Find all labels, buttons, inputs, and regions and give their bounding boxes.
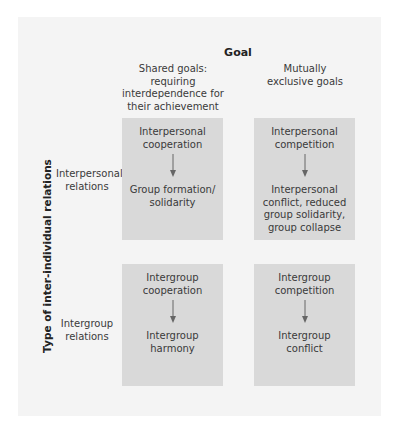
- column-header-shared-goals: Shared goals: requiring interdependence …: [112, 63, 234, 113]
- cell-cause: Intergroup cooperation: [122, 272, 223, 297]
- cell-effect: Intergroup harmony: [122, 330, 223, 355]
- cell-interpersonal-shared: Interpersonal cooperation Group formatio…: [122, 118, 223, 240]
- cell-intergroup-shared: Intergroup cooperation Intergroup harmon…: [122, 264, 223, 386]
- row-header-intergroup: Intergroup relations: [56, 318, 118, 343]
- cell-effect: Group formation/ solidarity: [122, 184, 223, 209]
- cell-interpersonal-exclusive: Interpersonal competition Interpersonal …: [254, 118, 355, 240]
- cell-effect: Intergroup conflict: [254, 330, 355, 355]
- goal-axis-title: Goal: [208, 46, 268, 59]
- column-header-exclusive-goals: Mutually exclusive goals: [250, 63, 360, 88]
- cell-effect: Interpersonal conflict, reduced group so…: [254, 184, 355, 234]
- row-header-interpersonal: Interpersonal relations: [56, 168, 118, 193]
- arrow-down-icon: [300, 300, 310, 324]
- cell-cause: Intergroup competition: [254, 272, 355, 297]
- cell-intergroup-exclusive: Intergroup competition Intergroup confli…: [254, 264, 355, 386]
- arrow-down-icon: [168, 300, 178, 324]
- arrow-down-icon: [300, 154, 310, 178]
- cell-cause: Interpersonal competition: [254, 126, 355, 151]
- relations-axis-title: Type of inter-individual relations: [41, 159, 53, 353]
- cell-cause: Interpersonal cooperation: [122, 126, 223, 151]
- arrow-down-icon: [168, 154, 178, 178]
